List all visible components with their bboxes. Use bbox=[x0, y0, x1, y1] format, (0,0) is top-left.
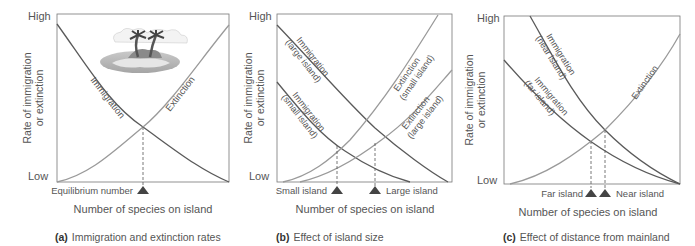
island-biogeography-figure: High Low Rate of immigration or extincti… bbox=[0, 0, 695, 246]
caption-a: (a)Immigration and extinction rates bbox=[55, 231, 221, 243]
x-axis-label: Number of species on island bbox=[519, 206, 658, 218]
y-tick-high: High bbox=[249, 10, 272, 22]
svg-text:Rate of immigration: Rate of immigration bbox=[242, 52, 254, 143]
svg-text:or extinction: or extinction bbox=[254, 70, 266, 127]
triangle-marker-icon bbox=[599, 189, 611, 197]
y-tick-low: Low bbox=[477, 174, 497, 186]
y-tick-low: Low bbox=[28, 170, 48, 182]
near-island-label: Near island bbox=[616, 188, 664, 199]
y-tick-high: High bbox=[28, 10, 51, 22]
small-island-label: Small island bbox=[276, 185, 327, 196]
y-axis-label: Rate of immigration or extinction bbox=[242, 52, 266, 143]
triangle-marker-icon bbox=[137, 186, 149, 194]
x-axis-label: Number of species on island bbox=[74, 203, 213, 215]
equilibrium-label: Equilibrium number bbox=[51, 185, 133, 196]
y-tick-low: Low bbox=[249, 170, 269, 182]
triangle-marker-icon bbox=[331, 186, 343, 194]
triangle-marker-icon bbox=[585, 189, 597, 197]
svg-text:or extinction: or extinction bbox=[475, 72, 487, 129]
y-axis-label: Rate of immigration or extinction bbox=[463, 54, 487, 145]
x-axis-label: Number of species on island bbox=[296, 203, 435, 215]
large-island-label: Large island bbox=[386, 185, 438, 196]
y-tick-high: High bbox=[477, 12, 500, 24]
panel-c: High Low Rate of immigration or extincti… bbox=[463, 12, 680, 243]
plot-area bbox=[504, 16, 680, 184]
caption-b: (b)Effect of island size bbox=[276, 231, 384, 243]
far-island-label: Far island bbox=[541, 188, 583, 199]
panel-b: High Low Rate of immigration or extincti… bbox=[242, 10, 452, 243]
y-axis-label: Rate of immigration or extinction bbox=[21, 52, 45, 143]
svg-text:Rate of immigration: Rate of immigration bbox=[21, 52, 33, 143]
svg-text:or extinction: or extinction bbox=[33, 70, 45, 127]
svg-text:Rate of immigration: Rate of immigration bbox=[463, 54, 475, 145]
caption-c: (c)Effect of distance from mainland bbox=[503, 231, 670, 243]
triangle-marker-icon bbox=[369, 186, 381, 194]
panel-a: High Low Rate of immigration or extincti… bbox=[21, 10, 229, 243]
